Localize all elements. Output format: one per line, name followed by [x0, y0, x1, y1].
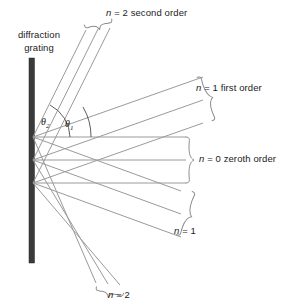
- first-order-up-beam: [33, 77, 203, 183]
- ray-second-down-a: [33, 137, 96, 283]
- label-first-order-up-rest: = 1 first order: [201, 82, 261, 93]
- label-second-order-down: n = 2: [108, 289, 130, 301]
- zeroth-order-beam: [33, 137, 186, 183]
- grating-label: diffraction grating: [8, 28, 70, 54]
- label-first-order-down: n = 1: [174, 225, 196, 237]
- ray-first-down-b: [33, 160, 181, 214]
- ray-first-down-c: [33, 183, 181, 237]
- label-second-order-up: n = 2 second order: [106, 7, 187, 19]
- label-second-order-down-rest: = 2: [113, 289, 130, 300]
- label-zeroth-order: n = 0 zeroth order: [199, 153, 276, 165]
- second-order-down-beam: [33, 137, 120, 285]
- grating-label-line1: diffraction: [18, 29, 60, 40]
- theta2-subscript: 2: [46, 122, 50, 130]
- grating-label-line2: grating: [24, 42, 54, 53]
- ray-second-down-b: [33, 160, 108, 284]
- diagram-canvas: diffraction grating n = 2 second order n…: [0, 0, 291, 305]
- label-first-order-up: n = 1 first order: [196, 82, 262, 94]
- theta2-label: θ2: [41, 116, 49, 130]
- label-first-order-down-rest: = 1: [179, 225, 196, 236]
- theta1-label: θ1: [65, 118, 73, 132]
- theta1-subscript: 1: [70, 124, 74, 132]
- label-second-order-up-rest: = 2 second order: [111, 7, 187, 18]
- ray-second-down-c: [33, 183, 120, 285]
- brace-zeroth-order: [186, 137, 194, 183]
- label-zeroth-order-rest: = 0 zeroth order: [204, 153, 276, 164]
- theta1-arc: [83, 107, 91, 137]
